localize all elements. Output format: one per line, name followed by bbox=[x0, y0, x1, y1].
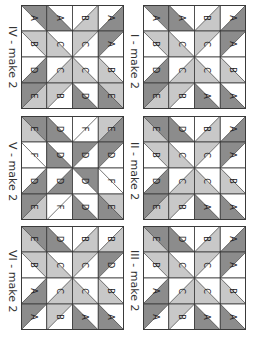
half-square-triangle-cell: C bbox=[169, 278, 195, 304]
half-square-triangle-cell: B bbox=[98, 57, 124, 83]
fabric-letter: B bbox=[151, 262, 160, 268]
fabric-letter: E bbox=[29, 204, 38, 209]
half-square-triangle-cell: A bbox=[98, 304, 124, 330]
half-square-triangle-cell: A bbox=[220, 226, 246, 252]
fabric-letter: F bbox=[55, 205, 64, 210]
fabric-letter: F bbox=[29, 153, 38, 158]
fabric-letter: E bbox=[151, 126, 160, 131]
fabric-letter: E bbox=[29, 236, 38, 241]
fabric-letter: A bbox=[177, 15, 186, 21]
fabric-letter: A bbox=[228, 126, 237, 132]
half-square-triangle-cell: A bbox=[143, 304, 169, 330]
fabric-letter: D bbox=[80, 204, 89, 210]
fabric-letter: A bbox=[151, 314, 160, 320]
fabric-letter: D bbox=[55, 178, 64, 184]
fabric-letter: A bbox=[228, 41, 237, 47]
half-square-triangle-cell: C bbox=[195, 142, 221, 168]
half-square-triangle-cell: D bbox=[73, 83, 99, 109]
half-square-triangle-cell: B bbox=[73, 226, 99, 252]
block-label: V - make 2 bbox=[7, 142, 18, 201]
block-label: II - make 2 bbox=[129, 142, 140, 200]
fabric-letter: D bbox=[106, 152, 115, 158]
half-square-triangle-cell: B bbox=[220, 278, 246, 304]
half-square-triangle-cell: E bbox=[143, 83, 169, 109]
half-square-triangle-cell: A bbox=[220, 5, 246, 31]
half-square-triangle-cell: B bbox=[21, 31, 47, 57]
fabric-letter: B bbox=[177, 204, 186, 210]
half-square-triangle-cell: E bbox=[98, 83, 124, 109]
half-square-triangle-cell: D bbox=[47, 142, 73, 168]
fabric-letter: B bbox=[228, 67, 237, 73]
half-square-triangle-cell: A bbox=[195, 83, 221, 109]
half-square-triangle-cell: C bbox=[195, 278, 221, 304]
fabric-letter: A bbox=[106, 314, 115, 320]
half-square-triangle-cell: A bbox=[143, 278, 169, 304]
fabric-letter: D bbox=[29, 67, 38, 73]
fabric-letter: F bbox=[80, 127, 89, 132]
fabric-letter: C bbox=[177, 67, 186, 73]
half-square-triangle-cell: B bbox=[73, 5, 99, 31]
half-square-triangle-cell: A bbox=[220, 304, 246, 330]
fabric-letter: D bbox=[80, 93, 89, 99]
fabric-letter: C bbox=[202, 288, 211, 294]
block-label: I - make 2 bbox=[129, 34, 140, 89]
fabric-letter: B bbox=[228, 178, 237, 184]
half-square-triangle-cell: A bbox=[220, 194, 246, 220]
fabric-letter: B bbox=[29, 262, 38, 268]
half-square-triangle-cell: F bbox=[73, 116, 99, 142]
fabric-letter: D bbox=[55, 126, 64, 132]
half-square-triangle-cell: B bbox=[169, 194, 195, 220]
block-label: VI - make 2 bbox=[7, 250, 18, 312]
fabric-letter: E bbox=[29, 93, 38, 98]
half-square-triangle-cell: A bbox=[98, 5, 124, 31]
fabric-letter: B bbox=[55, 93, 64, 99]
half-square-triangle-cell: B bbox=[195, 5, 221, 31]
fabric-letter: A bbox=[228, 236, 237, 242]
half-square-triangle-cell: D bbox=[47, 116, 73, 142]
fabric-letter: B bbox=[80, 236, 89, 242]
fabric-letter: D bbox=[177, 126, 186, 132]
quilt-block-iv: AABABCCADCCBEBDE bbox=[21, 5, 124, 109]
fabric-letter: C bbox=[202, 178, 211, 184]
quilt-block-v: EDFEFDDDDDDFEFDE bbox=[21, 116, 124, 220]
half-square-triangle-cell: B bbox=[169, 304, 195, 330]
fabric-letter: B bbox=[106, 288, 115, 294]
half-square-triangle-cell: C bbox=[169, 252, 195, 278]
half-square-triangle-cell: B bbox=[169, 83, 195, 109]
fabric-letter: A bbox=[228, 15, 237, 21]
fabric-letter: C bbox=[80, 288, 89, 294]
half-square-triangle-cell: A bbox=[220, 116, 246, 142]
fabric-letter: A bbox=[228, 152, 237, 158]
fabric-letter: C bbox=[177, 41, 186, 47]
quilt-block-ii: EDBABCCADCCBEBAA bbox=[143, 116, 246, 220]
half-square-triangle-cell: D bbox=[21, 168, 47, 194]
half-square-triangle-cell: A bbox=[98, 31, 124, 57]
fabric-letter: C bbox=[177, 152, 186, 158]
fabric-letter: C bbox=[80, 67, 89, 73]
half-square-triangle-cell: C bbox=[47, 57, 73, 83]
fabric-letter: D bbox=[106, 262, 115, 268]
half-square-triangle-cell: B bbox=[220, 57, 246, 83]
half-square-triangle-cell: E bbox=[143, 194, 169, 220]
fabric-letter: F bbox=[106, 179, 115, 184]
fabric-letter: C bbox=[177, 178, 186, 184]
half-square-triangle-cell: E bbox=[143, 226, 169, 252]
fabric-letter: C bbox=[55, 262, 64, 268]
fabric-letter: A bbox=[202, 93, 211, 99]
fabric-letter: C bbox=[55, 67, 64, 73]
half-square-triangle-cell: D bbox=[98, 142, 124, 168]
quilt-block-vi: EDBBBCCDACCBABAA bbox=[21, 226, 124, 330]
fabric-letter: C bbox=[202, 41, 211, 47]
half-square-triangle-cell: A bbox=[195, 194, 221, 220]
half-square-triangle-cell: E bbox=[21, 116, 47, 142]
block-label: III - make 2 bbox=[129, 250, 140, 311]
fabric-letter: E bbox=[106, 93, 115, 98]
fabric-letter: A bbox=[202, 314, 211, 320]
fabric-letter: B bbox=[177, 93, 186, 99]
half-square-triangle-cell: C bbox=[47, 31, 73, 57]
half-square-triangle-cell: D bbox=[47, 168, 73, 194]
half-square-triangle-cell: D bbox=[73, 142, 99, 168]
half-square-triangle-cell: D bbox=[47, 226, 73, 252]
half-square-triangle-cell: D bbox=[169, 116, 195, 142]
fabric-letter: D bbox=[55, 236, 64, 242]
